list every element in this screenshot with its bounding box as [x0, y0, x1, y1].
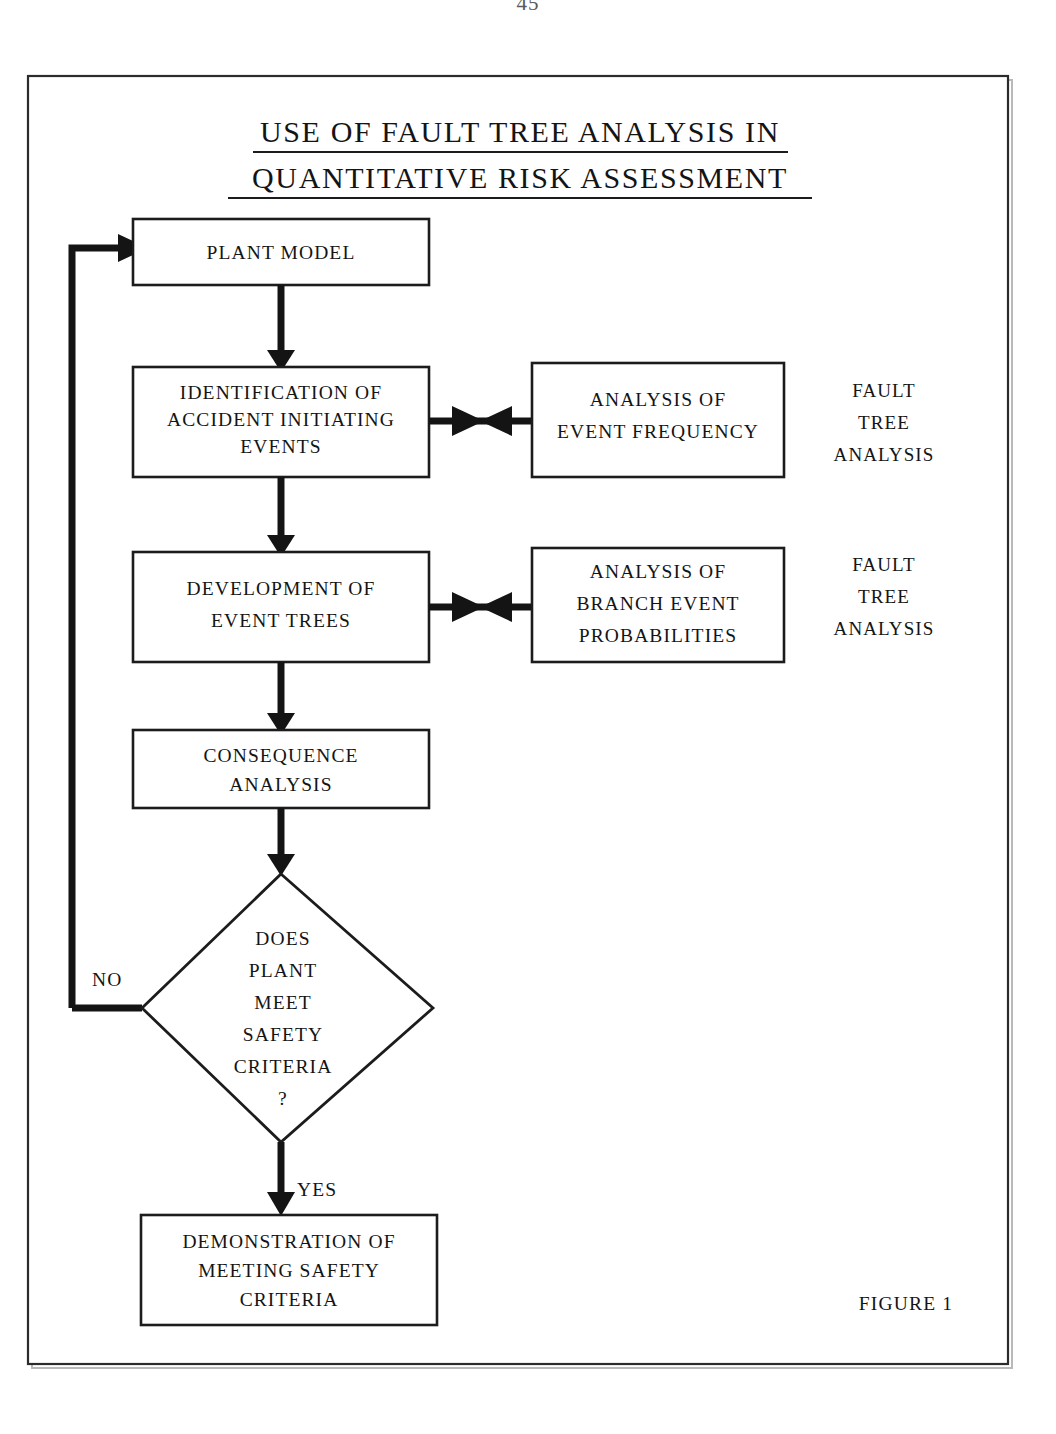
node-branch-probabilities-line-1: ANALYSIS OF — [590, 561, 726, 582]
node-decision-line-3: MEET — [254, 992, 311, 1013]
node-decision-line-6: ? — [278, 1088, 288, 1109]
node-branch-probabilities-line-2: BRANCH EVENT — [576, 593, 739, 614]
side-label-upper-line-1: FAULT — [852, 380, 916, 401]
node-event-trees[interactable] — [133, 552, 429, 662]
node-demonstration-line-2: MEETING SAFETY — [198, 1260, 380, 1281]
node-event-trees-line-2: EVENT TREES — [211, 610, 351, 631]
side-label-lower-line-1: FAULT — [852, 554, 916, 575]
figure-title-line-2: QUANTITATIVE RISK ASSESSMENT — [252, 161, 788, 194]
node-branch-probabilities-line-3: PROBABILITIES — [579, 625, 737, 646]
branch-label-no: NO — [92, 969, 122, 990]
node-event-trees-line-1: DEVELOPMENT OF — [187, 578, 376, 599]
side-label-upper-line-2: TREE — [858, 412, 910, 433]
node-identification-line-1: IDENTIFICATION OF — [180, 382, 382, 403]
fault-tree-flowchart: USE OF FAULT TREE ANALYSIS IN QUANTITATI… — [0, 0, 1056, 1434]
side-label-upper-line-3: ANALYSIS — [834, 444, 935, 465]
node-decision-line-1: DOES — [255, 928, 310, 949]
node-plant-model-label: PLANT MODEL — [207, 242, 356, 263]
node-event-frequency-line-1: ANALYSIS OF — [590, 389, 726, 410]
node-consequence-analysis[interactable] — [133, 730, 429, 808]
node-decision-line-2: PLANT — [249, 960, 317, 981]
side-label-lower-line-3: ANALYSIS — [834, 618, 935, 639]
figure-title-line-1: USE OF FAULT TREE ANALYSIS IN — [260, 115, 780, 148]
node-demonstration-line-1: DEMONSTRATION OF — [182, 1231, 395, 1252]
node-event-frequency[interactable] — [532, 363, 784, 477]
node-event-frequency-line-2: EVENT FREQUENCY — [557, 421, 759, 442]
node-consequence-line-1: CONSEQUENCE — [203, 745, 358, 766]
node-decision-line-5: CRITERIA — [234, 1056, 333, 1077]
side-label-lower-line-2: TREE — [858, 586, 910, 607]
node-demonstration-line-3: CRITERIA — [240, 1289, 339, 1310]
node-consequence-line-2: ANALYSIS — [229, 774, 332, 795]
figure-caption: FIGURE 1 — [859, 1293, 954, 1314]
node-decision-line-4: SAFETY — [243, 1024, 323, 1045]
document-page: 45 USE OF FAULT TREE ANALYSIS IN QUANTIT… — [0, 0, 1056, 1434]
node-identification-line-3: EVENTS — [240, 436, 321, 457]
node-identification-line-2: ACCIDENT INITIATING — [167, 409, 395, 430]
branch-label-yes: YES — [297, 1179, 337, 1200]
